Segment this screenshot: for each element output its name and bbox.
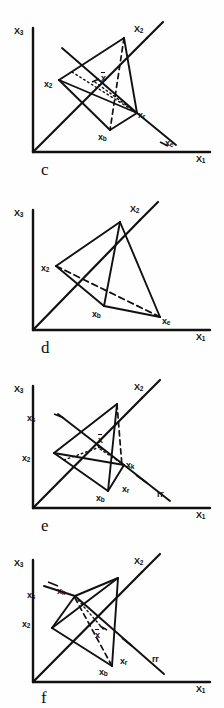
panel-e-drawing: [0, 356, 224, 534]
vertex-label-x2: x2: [44, 79, 52, 89]
axis-x2-tip: [140, 202, 158, 220]
axis-label-x3: X3: [14, 384, 23, 394]
vertex-label-x2: x2: [22, 453, 30, 463]
panel-d: X3 X1 X2 x2 xb xe d: [0, 178, 224, 356]
vertex-label-xb: xb: [99, 667, 108, 677]
vertex-label-xb: xb: [92, 309, 101, 319]
edge-apex-xe: [120, 222, 160, 317]
edge-x2-apex: [54, 404, 117, 453]
edge-x2-xk: [54, 453, 124, 465]
axis-label-x2: X2: [134, 382, 143, 392]
vertex-label-x2: x2: [22, 619, 30, 629]
edge-x2-apex: [56, 222, 120, 266]
edge-xb-xr: [110, 113, 137, 130]
figure-page: X3 X1 X2 x2 x xr xb xe c X3: [0, 0, 224, 708]
panel-c: X3 X1 X2 x2 x xr xb xe c: [0, 0, 224, 178]
xr-arrow-shaft: [122, 638, 132, 646]
vertex-label-xbar: x: [95, 630, 100, 640]
vertex-label-xs: xs: [27, 413, 35, 423]
axis-label-x3: X3: [14, 208, 23, 218]
axis-x2-tip: [142, 380, 160, 398]
axis-x2-tip: [147, 22, 163, 38]
vertex-label-xb: xb: [98, 132, 107, 142]
axis-label-x1: X1: [196, 684, 205, 694]
panel-letter-d: d: [41, 338, 50, 358]
panel-d-drawing: [0, 178, 224, 356]
panel-e: X3 X1 X2 xs x2 x xk xr xb rr e: [0, 356, 224, 534]
panel-letter-c: c: [41, 160, 49, 180]
axis-label-x1: X1: [196, 154, 205, 164]
edge-apex-xb: [112, 578, 118, 666]
edge-x2-xr: [59, 80, 137, 113]
vertex-label-xr: xr: [122, 484, 129, 494]
vertex-label-xk: xk: [57, 586, 65, 596]
vertex-label-xk: xk: [126, 460, 134, 470]
axis-label-x1: X1: [196, 510, 205, 520]
vertex-label-rr: rr: [152, 654, 159, 664]
xr-arrow-shaft: [136, 475, 147, 483]
axis-label-x2: X2: [134, 24, 143, 34]
dashed-apex-xb: [110, 38, 124, 130]
vertex-label-xbar: x: [101, 73, 106, 83]
panel-letter-e: e: [41, 516, 49, 536]
panel-f-drawing: [0, 534, 224, 708]
axis-label-x3: X3: [14, 26, 23, 36]
vertex-label-xr: xr: [120, 656, 127, 666]
axis-label-x3: X3: [14, 558, 23, 568]
vertex-label-rr: rr: [157, 489, 164, 499]
panel-c-drawing: [0, 0, 224, 178]
dashed-apex-xk: [117, 404, 122, 466]
axis-x2-line: [33, 38, 147, 152]
axis-x2-line: [33, 220, 140, 330]
vertex-label-x2: x2: [41, 263, 49, 273]
panel-letter-f: f: [41, 688, 47, 708]
axis-label-x2: X2: [130, 204, 139, 214]
vertex-label-xe: xe: [162, 316, 170, 326]
axis-x2-tip: [142, 554, 160, 572]
axis-label-x2: X2: [134, 556, 143, 566]
vertex-label-xs: xs: [27, 590, 35, 600]
vertex-label-xb: xb: [96, 493, 105, 503]
vertex-label-xbar: x: [98, 435, 103, 445]
vertex-label-xe: xe: [165, 138, 173, 148]
vertex-label-xr: xr: [138, 110, 145, 120]
axis-label-x1: X1: [196, 332, 205, 342]
panel-f: X3 X1 X2 xs xk x2 x xr xb rr f: [0, 534, 224, 708]
edge-xb-xe: [104, 306, 160, 317]
